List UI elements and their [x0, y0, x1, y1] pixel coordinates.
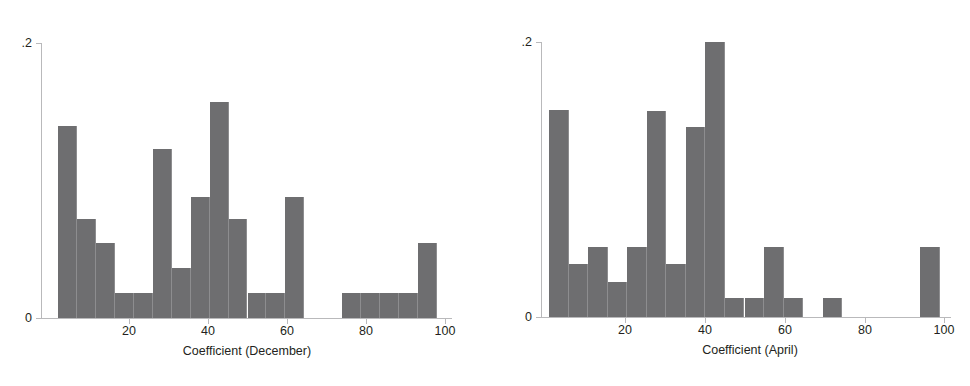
histogram-bar [285, 197, 304, 318]
chart-panel-december: .2 0 20 40 60 80 100 Coefficient (Decemb… [0, 0, 485, 386]
histogram-bar [210, 102, 229, 318]
histogram-bar [134, 293, 153, 318]
histogram-bar [569, 264, 589, 317]
histogram-bar [342, 293, 361, 318]
histogram-bars-april [485, 0, 970, 386]
histogram-bar [666, 264, 686, 317]
histogram-bar [77, 219, 96, 318]
histogram-bar [588, 247, 608, 317]
histogram-bar [627, 247, 647, 317]
histogram-bar [115, 293, 134, 318]
plot-area-december: .2 0 20 40 60 80 100 Coefficient (Decemb… [0, 0, 485, 386]
chart-panel-april: .2 0 20 40 60 80 100 Coefficient (April) [485, 0, 970, 386]
histogram-bar [549, 110, 569, 317]
plot-area-april: .2 0 20 40 60 80 100 Coefficient (April) [485, 0, 970, 386]
histogram-bar [380, 293, 399, 318]
histogram-bar [784, 298, 804, 317]
histogram-bar [229, 219, 248, 318]
histogram-bar [647, 111, 667, 317]
histogram-bar [608, 282, 628, 317]
histogram-bar [96, 243, 115, 318]
histogram-bar [153, 149, 172, 318]
histogram-bar [191, 197, 210, 318]
histogram-bar [58, 126, 77, 318]
histogram-bars-december [0, 0, 485, 386]
histogram-bar [745, 298, 765, 317]
histogram-bar [725, 298, 745, 317]
histogram-bar [266, 293, 285, 318]
histogram-bar [920, 247, 940, 317]
histogram-bar [764, 247, 784, 317]
histogram-bar [705, 42, 725, 317]
histogram-bar [686, 127, 706, 317]
histogram-bar [418, 243, 437, 318]
histogram-bar [361, 293, 380, 318]
histogram-bar [399, 293, 418, 318]
histogram-bar [248, 293, 267, 318]
histogram-bar [823, 298, 843, 317]
histogram-bar [172, 268, 191, 318]
